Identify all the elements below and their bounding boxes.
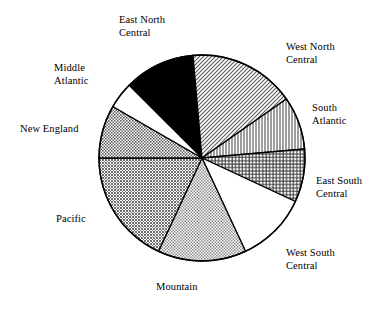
pie-label-west-north-central: West North Central (286, 41, 335, 66)
pie-label-west-south-central: West South Central (286, 247, 335, 272)
pie-slices-group (99, 55, 305, 261)
pie-label-east-north-central: East North Central (119, 14, 165, 39)
pie-label-middle-atlantic: Middle Atlantic (54, 62, 89, 87)
pie-label-pacific: Pacific (56, 213, 86, 226)
pie-label-south-atlantic: South Atlantic (312, 102, 347, 127)
pie-chart: East North Central West North Central So… (0, 0, 384, 310)
pie-label-new-england: New England (20, 123, 79, 136)
pie-label-east-south-central: East South Central (316, 175, 362, 200)
pie-label-mountain: Mountain (156, 281, 198, 294)
